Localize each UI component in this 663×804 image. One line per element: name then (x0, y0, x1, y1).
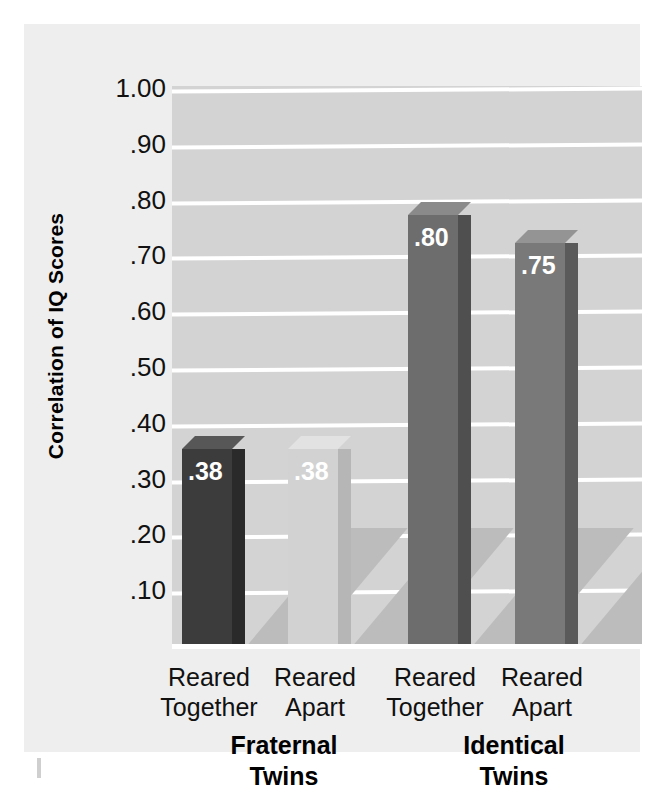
gridline (172, 198, 642, 205)
y-axis-tick-label: .50 (46, 352, 166, 383)
plot-area: .38.38.80.75 (172, 86, 642, 648)
page-tick-mark (37, 758, 41, 778)
bar-front-face: .38 (182, 449, 232, 648)
bar-side-face (565, 243, 578, 649)
y-axis-tick-label: .30 (46, 464, 166, 495)
x-axis-category-label: RearedTogether (375, 662, 495, 722)
gridline (172, 87, 642, 94)
x-axis-group-label: IdenticalTwins (429, 730, 599, 792)
bar-front-face: .75 (515, 243, 565, 649)
category-label-line1: Reared (482, 662, 602, 692)
bar-front-face: .80 (408, 215, 458, 648)
bar[interactable]: .38 (288, 436, 351, 648)
group-label-line2: Twins (199, 761, 369, 792)
y-axis-tick-label: .70 (46, 240, 166, 271)
chart-figure: Correlation of IQ Scores 1.00.90.80.70.6… (24, 24, 640, 752)
category-label-line2: Together (375, 692, 495, 722)
bar-side-face (338, 449, 351, 648)
x-axis-category-label: RearedTogether (149, 662, 269, 722)
bar-top-face (288, 436, 351, 449)
bar-top-face (182, 436, 245, 449)
y-axis-tick-label: 1.00 (46, 73, 166, 104)
x-axis-group-label: FraternalTwins (199, 730, 369, 792)
y-axis-tick-label: .90 (46, 129, 166, 160)
y-axis-tick-label: .40 (46, 408, 166, 439)
bar-value-label: .38 (294, 457, 329, 486)
category-label-line2: Apart (255, 692, 375, 722)
category-label-line2: Together (149, 692, 269, 722)
bar-value-label: .75 (521, 251, 556, 280)
bar-top-face (408, 202, 471, 215)
y-axis-tick-label: .10 (46, 575, 166, 606)
bar-value-label: .80 (414, 223, 449, 252)
x-axis-baseline (172, 644, 642, 649)
bar[interactable]: .38 (182, 436, 245, 648)
group-label-line1: Fraternal (199, 730, 369, 761)
y-axis-tick-label: .80 (46, 185, 166, 216)
group-label-line1: Identical (429, 730, 599, 761)
category-label-line1: Reared (255, 662, 375, 692)
bar-top-face (515, 230, 578, 243)
category-label-line2: Apart (482, 692, 602, 722)
bar-front-face: .38 (288, 449, 338, 648)
y-axis-tick-labels: 1.00.90.80.70.60.50.40.30.20.10 (34, 24, 166, 752)
bar[interactable]: .75 (515, 230, 578, 649)
bar-value-label: .38 (188, 457, 223, 486)
x-axis-category-label: RearedApart (255, 662, 375, 722)
category-label-line1: Reared (375, 662, 495, 692)
category-label-line1: Reared (149, 662, 269, 692)
bar[interactable]: .80 (408, 202, 471, 648)
group-label-line2: Twins (429, 761, 599, 792)
y-axis-tick-label: .60 (46, 296, 166, 327)
bar-side-face (458, 215, 471, 648)
bar-side-face (232, 449, 245, 648)
gridline (172, 142, 642, 149)
y-axis-tick-label: .20 (46, 519, 166, 550)
x-axis-category-label: RearedApart (482, 662, 602, 722)
